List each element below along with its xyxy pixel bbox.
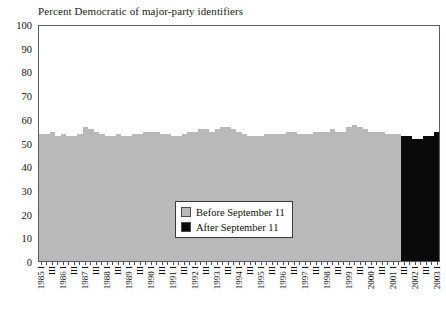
x-axis-labels: 1985 IIII1986 IIII1987 IIII1988 IIII1989… <box>38 266 440 324</box>
chart-legend: Before September 11 After September 11 <box>175 201 293 238</box>
legend-label-before: Before September 11 <box>196 207 285 218</box>
legend-swatch-before-icon <box>181 207 191 217</box>
bar <box>434 132 439 261</box>
y-axis-tick-label: 30 <box>2 185 32 196</box>
legend-item-after: After September 11 <box>181 220 285 234</box>
y-axis-tick-label: 20 <box>2 209 32 220</box>
y-axis-tick-label: 80 <box>2 67 32 78</box>
x-axis-label-cell: 2003 I <box>434 266 440 324</box>
y-axis-tick-label: 70 <box>2 91 32 102</box>
y-axis-tick-label: 90 <box>2 43 32 54</box>
y-axis-tick-label: 0 <box>2 257 32 268</box>
legend-item-before: Before September 11 <box>181 205 285 219</box>
legend-label-after: After September 11 <box>196 222 278 233</box>
y-axis-tick-label: 40 <box>2 162 32 173</box>
legend-swatch-after-icon <box>181 222 191 232</box>
y-axis-tick-label: 60 <box>2 114 32 125</box>
x-axis-tick-label: 2003 I <box>432 266 442 289</box>
y-axis-tick-label: 50 <box>2 138 32 149</box>
y-axis-tick-label: 10 <box>2 233 32 244</box>
y-axis-tick-label: 100 <box>2 20 32 31</box>
chart-root: Percent Democratic of major-party identi… <box>0 0 446 326</box>
